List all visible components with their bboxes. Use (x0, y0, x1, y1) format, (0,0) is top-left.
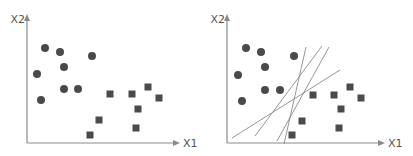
class-b-point (336, 125, 343, 132)
class-b-point (289, 132, 296, 139)
class-a-point (56, 48, 64, 56)
class-b-point (145, 84, 152, 91)
x-axis-arrow-icon (378, 140, 385, 146)
class-b-point (331, 92, 338, 99)
class-a-point (37, 96, 45, 104)
class-a-point (60, 85, 68, 93)
class-a-point (88, 52, 96, 60)
class-a-point (261, 86, 269, 94)
x-axis-label: X1 (388, 137, 403, 150)
class-a-point (33, 70, 41, 78)
x-axis-label: X1 (183, 137, 198, 150)
class-b-point (129, 91, 136, 98)
class-b-point (310, 92, 317, 99)
class-b-point (135, 106, 142, 113)
diagram-stage: X2X1X2X1 (0, 0, 413, 156)
y-axis-label: X2 (210, 13, 225, 26)
class-b-point (299, 118, 306, 125)
class-a-point (257, 48, 265, 56)
scatter-diagrams: X2X1X2X1 (0, 0, 413, 156)
class-a-point (242, 44, 250, 52)
class-a-point (290, 52, 298, 60)
class-a-point (41, 44, 49, 52)
class-a-point (234, 71, 242, 79)
class-a-point (261, 63, 269, 71)
panel-right: X2X1 (210, 13, 402, 150)
separating-line (284, 47, 306, 144)
panel-left: X2X1 (10, 13, 197, 150)
class-b-point (87, 132, 94, 139)
class-a-point (60, 63, 68, 71)
class-b-point (133, 125, 140, 132)
y-axis-label: X2 (10, 13, 25, 26)
class-b-point (338, 106, 345, 113)
x-axis-arrow-icon (173, 140, 180, 146)
separating-line (232, 70, 340, 138)
class-b-point (107, 91, 114, 98)
class-b-point (358, 95, 365, 102)
class-b-point (156, 95, 163, 102)
class-a-point (238, 97, 246, 105)
class-b-point (347, 84, 354, 91)
class-a-point (276, 86, 284, 94)
class-b-point (96, 117, 103, 124)
class-a-point (74, 85, 82, 93)
